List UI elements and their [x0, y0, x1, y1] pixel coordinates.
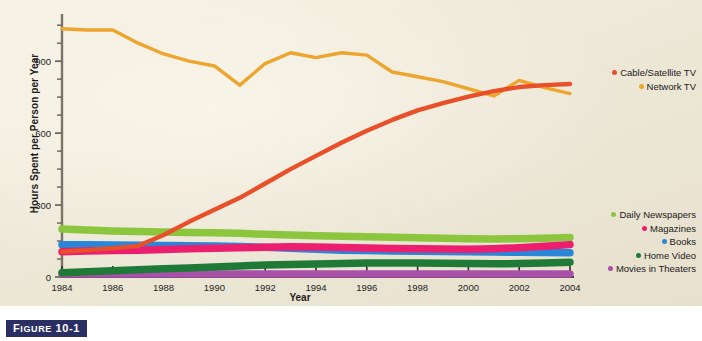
x-axis-title: Year [0, 292, 600, 303]
legend-label: Network TV [647, 81, 696, 92]
legend-top-item: Cable/Satellite TV [612, 66, 696, 80]
figure-panel: 0300600900198419861988199019921994199619… [0, 0, 702, 306]
figure-caption: FIGURE 10-1 [6, 320, 87, 337]
line-chart: 0300600900198419861988199019921994199619… [0, 0, 702, 306]
legend-bottom-item: Magazines [608, 222, 696, 236]
legend-dot-icon [608, 266, 613, 271]
legend-dot-icon [642, 226, 647, 231]
legend-dot-icon [639, 84, 644, 89]
legend-bottom-item: Home Video [608, 249, 696, 263]
legend-dot-icon [636, 253, 641, 258]
series-line-network-tv [62, 29, 570, 96]
legend-bottom-item: Movies in Theaters [608, 262, 696, 276]
svg-text:0: 0 [46, 272, 51, 283]
legend-top: Cable/Satellite TVNetwork TV [612, 66, 696, 93]
legend-label: Cable/Satellite TV [620, 67, 696, 78]
series-line-cable-satellite-tv [62, 84, 570, 252]
legend-label: Home Video [644, 250, 696, 261]
legend-top-item: Network TV [612, 80, 696, 94]
series-line-daily-newspapers [62, 229, 570, 239]
caption-word: IGURE [20, 324, 52, 334]
legend-bottom-item: Daily Newspapers [608, 208, 696, 222]
legend-label: Movies in Theaters [616, 263, 696, 274]
legend-bottom-item: Books [608, 235, 696, 249]
legend-label: Books [670, 236, 696, 247]
caption-number: 10-1 [56, 322, 80, 334]
legend-dot-icon [662, 239, 667, 244]
legend-bottom: Daily NewspapersMagazinesBooksHome Video… [608, 208, 696, 276]
legend-label: Magazines [650, 223, 696, 234]
legend-dot-icon [611, 212, 616, 217]
legend-dot-icon [612, 70, 617, 75]
legend-label: Daily Newspapers [619, 209, 696, 220]
y-axis-title: Hours Spent per Person per Year [29, 24, 40, 244]
chart-series [62, 29, 570, 274]
